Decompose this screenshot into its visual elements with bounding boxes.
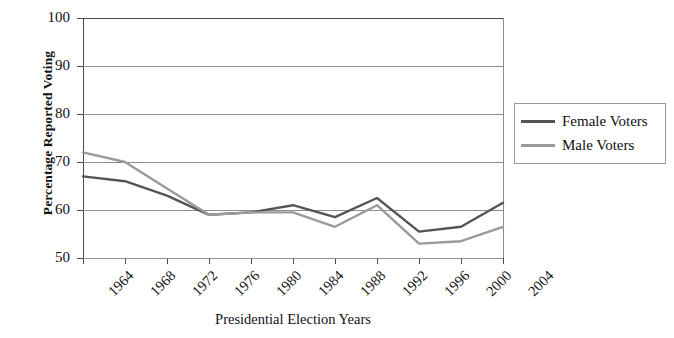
x-tick-label-1984: 1984 [315,268,346,299]
x-tick-mark-2004 [503,258,504,264]
gridline-50 [83,258,503,259]
legend-item-female[interactable]: Female Voters [521,109,659,133]
legend-swatch-female [521,120,555,123]
plot-right-border [503,18,504,259]
x-tick-label-1996: 1996 [441,268,472,299]
x-tick-label-1980: 1980 [273,268,304,299]
y-tick-label-60: 60 [30,202,70,217]
x-tick-label-1988: 1988 [357,268,388,299]
series-line-female-voters [83,176,503,231]
legend: Female Voters Male Voters [514,103,666,164]
x-axis-title: Presidential Election Years [83,311,503,328]
y-tick-label-50: 50 [30,250,70,265]
x-tick-label-2004: 2004 [525,268,556,299]
y-tick-label-70: 70 [30,154,70,169]
legend-label-female: Female Voters [562,113,648,129]
x-tick-label-1992: 1992 [399,268,430,299]
series-lines [83,18,503,258]
line-chart: Percentage Reported Voting 5060708090100… [0,0,674,338]
x-tick-label-1968: 1968 [147,268,178,299]
legend-label-male: Male Voters [562,137,634,153]
x-tick-label-2000: 2000 [483,268,514,299]
x-tick-label-1964: 1964 [105,268,136,299]
x-tick-label-1972: 1972 [189,268,220,299]
legend-item-male[interactable]: Male Voters [521,133,659,157]
x-tick-label-1976: 1976 [231,268,262,299]
plot-area [83,18,503,258]
y-tick-label-100: 100 [30,10,70,25]
legend-swatch-male [521,144,555,147]
y-tick-label-90: 90 [30,58,70,73]
y-tick-label-80: 80 [30,106,70,121]
